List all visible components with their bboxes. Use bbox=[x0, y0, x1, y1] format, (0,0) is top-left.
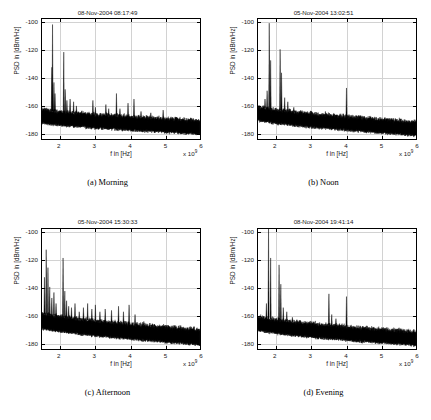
y-axis-tick-right bbox=[413, 232, 416, 233]
spectral-peak bbox=[119, 109, 120, 116]
y-axis-tick-right bbox=[413, 78, 416, 79]
x-tick-label: 5 bbox=[380, 142, 383, 149]
y-axis-tick bbox=[42, 260, 45, 261]
y-tick-label: -160 bbox=[242, 101, 254, 108]
y-axis-tick bbox=[42, 78, 45, 79]
psd-panel-b: 05-Nov-2004 13:02:51-100-120-140-160-180… bbox=[216, 0, 431, 210]
spectral-peak bbox=[46, 250, 47, 315]
y-axis-tick bbox=[258, 134, 261, 135]
plot-axes bbox=[257, 228, 417, 350]
y-axis-tick-right bbox=[413, 288, 416, 289]
spectral-peak bbox=[64, 291, 65, 317]
x-axis-tick bbox=[276, 136, 277, 139]
x-tick-label: 4 bbox=[128, 142, 131, 149]
psd-panel-c: 05-Nov-2004 15:30:33-100-120-140-160-180… bbox=[0, 210, 215, 420]
y-axis-tick bbox=[42, 344, 45, 345]
x-axis-tick bbox=[60, 346, 61, 349]
spectral-peak bbox=[53, 292, 54, 315]
y-axis-tick-right bbox=[197, 260, 200, 261]
x-tick-label: 4 bbox=[344, 142, 347, 149]
y-tick-label: -180 bbox=[26, 339, 38, 346]
y-tick-label: -180 bbox=[242, 339, 254, 346]
x-axis-label: f in [Hz] bbox=[41, 150, 201, 157]
y-tick-label: -120 bbox=[242, 45, 254, 52]
spectral-peak bbox=[95, 107, 96, 114]
x-axis-tick bbox=[131, 136, 132, 139]
y-tick-label: -120 bbox=[242, 255, 254, 262]
spectral-peak bbox=[270, 258, 271, 319]
x-axis-tick-top bbox=[276, 19, 277, 22]
spectral-peak bbox=[66, 100, 67, 112]
spectral-peak bbox=[134, 315, 135, 325]
spectral-peak bbox=[346, 297, 347, 327]
spectral-peak bbox=[269, 23, 270, 109]
spectral-peak bbox=[95, 305, 96, 321]
y-axis-label: PSD in [dBm/Hz] bbox=[229, 6, 236, 96]
spectral-peak bbox=[63, 52, 64, 112]
spectral-peak bbox=[292, 317, 293, 321]
spectral-peak bbox=[346, 88, 347, 117]
y-tick-label: -100 bbox=[26, 17, 38, 24]
x-tick-label: 6 bbox=[415, 352, 418, 359]
spectral-peak bbox=[358, 326, 359, 328]
psd-panel-a: 08-Nov-2004 08:17:49-100-120-140-160-180… bbox=[0, 0, 215, 210]
x-tick-label: 5 bbox=[164, 142, 167, 149]
spectral-peak bbox=[267, 91, 268, 109]
y-axis-label: PSD in [dBm/Hz] bbox=[13, 6, 20, 96]
y-axis-tick bbox=[258, 288, 261, 289]
plot-axes bbox=[257, 18, 417, 140]
spectral-peak bbox=[53, 82, 54, 111]
x-axis-label: f in [Hz] bbox=[257, 360, 417, 367]
x-axis-tick-top bbox=[311, 19, 312, 22]
spectral-peak bbox=[387, 118, 388, 119]
spectral-peak bbox=[287, 102, 288, 111]
x-axis-tick-top bbox=[166, 19, 167, 22]
psd-panel-d: 08-Nov-2004 19:41:14-100-120-140-160-180… bbox=[216, 210, 431, 420]
spectral-peak bbox=[79, 312, 80, 319]
x-axis-tick-top bbox=[347, 229, 348, 232]
x-axis-tick-top bbox=[131, 229, 132, 232]
y-tick-label: -140 bbox=[242, 73, 254, 80]
spectral-peak bbox=[44, 277, 45, 314]
x-axis-exponent: x 109 bbox=[183, 150, 197, 157]
plot-title: 08-Nov-2004 19:41:14 bbox=[216, 218, 431, 225]
x-tick-label: 3 bbox=[93, 352, 96, 359]
panel-caption-d: (d) Evening bbox=[216, 388, 431, 397]
y-axis-label: PSD in [dBm/Hz] bbox=[13, 216, 20, 306]
y-axis-tick-right bbox=[413, 316, 416, 317]
y-axis-tick bbox=[258, 78, 261, 79]
y-tick-label: -100 bbox=[242, 227, 254, 234]
spectral-peak bbox=[71, 308, 72, 318]
x-tick-label: 6 bbox=[199, 352, 202, 359]
spectral-peak bbox=[47, 268, 48, 315]
spectral-peak bbox=[55, 303, 56, 316]
x-axis-exponent-base: x 10 bbox=[183, 360, 195, 367]
spectral-peak bbox=[54, 93, 55, 111]
y-tick-label: -120 bbox=[26, 255, 38, 262]
x-axis-tick bbox=[166, 136, 167, 139]
spectral-peak bbox=[127, 103, 128, 116]
x-axis-tick-top bbox=[60, 19, 61, 22]
spectral-peak bbox=[73, 102, 74, 113]
y-axis-tick bbox=[258, 344, 261, 345]
spectral-peak bbox=[283, 308, 284, 321]
spectral-peak bbox=[280, 49, 281, 110]
y-tick-label: -100 bbox=[242, 17, 254, 24]
x-axis-tick-top bbox=[382, 229, 383, 232]
y-axis-tick-right bbox=[197, 232, 200, 233]
spectral-peak bbox=[133, 99, 134, 117]
y-axis-tick bbox=[258, 260, 261, 261]
spectral-peak bbox=[83, 308, 84, 320]
x-axis-tick bbox=[311, 136, 312, 139]
spectral-peak bbox=[280, 284, 281, 320]
y-axis-tick-right bbox=[197, 106, 200, 107]
spectral-peak bbox=[300, 320, 301, 322]
spectral-peak bbox=[108, 109, 109, 116]
x-axis-label: f in [Hz] bbox=[257, 150, 417, 157]
spectral-peak bbox=[163, 110, 164, 118]
spectral-peak bbox=[70, 99, 71, 113]
spectral-peak bbox=[91, 309, 92, 320]
noise-floor-band bbox=[258, 315, 416, 347]
x-axis-exponent: x 109 bbox=[399, 150, 413, 157]
panel-caption-c: (c) Afternoon bbox=[0, 388, 215, 397]
